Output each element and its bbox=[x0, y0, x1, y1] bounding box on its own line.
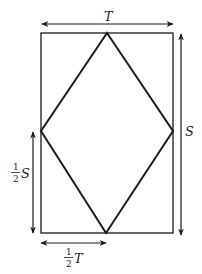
inscribed-rhombus bbox=[41, 33, 173, 233]
width-label: T bbox=[104, 9, 114, 24]
svg-text:1: 1 bbox=[66, 247, 72, 257]
svg-text:1: 1 bbox=[13, 162, 19, 172]
height-label: S bbox=[185, 124, 194, 139]
outer-rectangle bbox=[41, 33, 173, 233]
svg-text:T: T bbox=[74, 251, 84, 266]
svg-text:2: 2 bbox=[13, 174, 19, 184]
rectangle-rhombus-diagram: T S 1 2 S 1 2 T bbox=[0, 0, 202, 274]
svg-text:S: S bbox=[21, 166, 30, 181]
svg-text:2: 2 bbox=[66, 259, 72, 269]
half-height-label: 1 2 S bbox=[11, 162, 30, 184]
half-width-label: 1 2 T bbox=[64, 247, 84, 269]
